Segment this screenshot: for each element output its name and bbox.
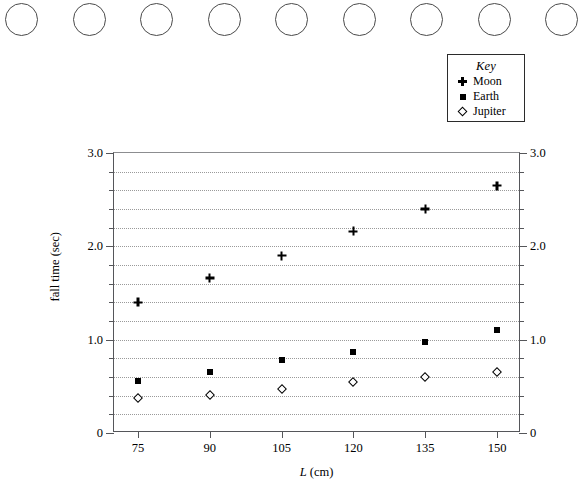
gridline-horizontal (114, 246, 519, 247)
square-marker (135, 378, 141, 384)
data-point-earth (494, 327, 500, 333)
y-axis-tick-left (109, 396, 114, 397)
gridline-horizontal (114, 377, 519, 378)
square-marker (422, 339, 428, 345)
data-point-moon (133, 298, 142, 307)
x-axis-label: 120 (344, 442, 363, 454)
x-axis-label: 90 (204, 442, 217, 454)
y-axis-tick-right (519, 228, 524, 229)
data-point-jupiter (206, 391, 213, 398)
x-axis-tick (353, 431, 354, 438)
legend-entry-label: Earth (470, 89, 499, 104)
y-axis-tick-left (109, 377, 114, 378)
y-axis-label-right: 3.0 (530, 147, 546, 159)
diamond-marker-glyph (458, 107, 468, 117)
y-axis-tick-left (106, 246, 114, 247)
y-axis-tick-left (109, 228, 114, 229)
data-point-jupiter (422, 374, 429, 381)
y-axis-tick-left (106, 153, 114, 154)
y-axis-tick-right (519, 433, 527, 434)
y-axis-tick-right (519, 321, 524, 322)
data-point-moon (493, 181, 502, 190)
legend-entries: MoonEarthJupiter (448, 74, 524, 119)
square-marker (494, 327, 500, 333)
y-axis-tick-left (109, 321, 114, 322)
y-axis-tick-right (519, 414, 524, 415)
data-point-earth (279, 357, 285, 363)
plus-marker (421, 205, 430, 214)
gridline-horizontal (114, 284, 519, 285)
x-axis-label: 105 (272, 442, 291, 454)
x-axis-label: 135 (416, 442, 435, 454)
y-axis-label-left: 3.0 (87, 147, 103, 159)
square-marker-glyph (460, 94, 466, 100)
square-marker (350, 349, 356, 355)
square-marker (455, 89, 470, 104)
data-point-earth (135, 378, 141, 384)
legend-entry: Moon (448, 74, 524, 89)
x-axis-title-unit: (cm) (307, 465, 334, 479)
square-marker (279, 357, 285, 363)
x-axis-tick (138, 431, 139, 438)
x-axis-label: 150 (488, 442, 507, 454)
data-point-moon (205, 274, 214, 283)
diamond-marker (420, 372, 430, 382)
data-point-jupiter (350, 378, 357, 385)
data-point-jupiter (134, 394, 141, 401)
x-axis-title-symbol: L (300, 465, 307, 479)
gridline-horizontal (114, 396, 519, 397)
plus-marker (133, 298, 142, 307)
y-axis-tick-right (519, 302, 524, 303)
gridline-horizontal (114, 414, 519, 415)
y-axis-tick-right (519, 377, 524, 378)
gridline-horizontal (114, 302, 519, 303)
plus-marker (455, 74, 470, 89)
y-axis-tick-right (519, 190, 524, 191)
x-axis-tick (282, 431, 283, 438)
gridline-horizontal (114, 265, 519, 266)
gridline-horizontal (114, 321, 519, 322)
y-axis-tick-right (519, 284, 524, 285)
data-point-moon (277, 251, 286, 260)
y-axis-label-left: 0 (97, 427, 103, 439)
y-axis-label-left: 1.0 (87, 334, 103, 346)
diamond-marker (205, 390, 215, 400)
y-axis-tick-right (519, 340, 527, 341)
y-axis-tick-right (519, 153, 527, 154)
x-axis-tick (425, 431, 426, 438)
gridline-horizontal (114, 228, 519, 229)
diamond-marker (133, 393, 143, 403)
x-axis-title: L (cm) (113, 465, 520, 480)
plot-area: 001.01.02.02.03.03.07590105120135150 (113, 152, 520, 432)
gridline-horizontal (114, 340, 519, 341)
data-point-jupiter (278, 386, 285, 393)
data-point-moon (421, 205, 430, 214)
x-axis-label: 75 (132, 442, 145, 454)
y-axis-tick-left (109, 209, 114, 210)
plus-marker (349, 227, 358, 236)
gridline-horizontal (114, 358, 519, 359)
legend-entry-label: Moon (470, 74, 502, 89)
diamond-marker (277, 384, 287, 394)
data-point-earth (350, 349, 356, 355)
y-axis-tick-left (106, 340, 114, 341)
y-axis-label-left: 2.0 (87, 240, 103, 252)
y-axis-tick-left (109, 284, 114, 285)
y-axis-tick-right (519, 396, 524, 397)
data-point-jupiter (494, 369, 501, 376)
y-axis-tick-right (519, 246, 527, 247)
y-axis-tick-left (109, 265, 114, 266)
y-axis-tick-right (519, 172, 524, 173)
square-marker (207, 369, 213, 375)
y-axis-tick-right (519, 265, 524, 266)
gridline-horizontal (114, 190, 519, 191)
legend-title: Key (448, 59, 524, 74)
y-axis-tick-left (109, 358, 114, 359)
gridline-horizontal (114, 209, 519, 210)
legend-entry-label: Jupiter (470, 104, 506, 119)
y-axis-tick-right (519, 209, 524, 210)
x-axis-tick (210, 431, 211, 438)
legend-key-box: Key MoonEarthJupiter (447, 54, 525, 122)
data-point-earth (207, 369, 213, 375)
legend-entry: Earth (448, 89, 524, 104)
